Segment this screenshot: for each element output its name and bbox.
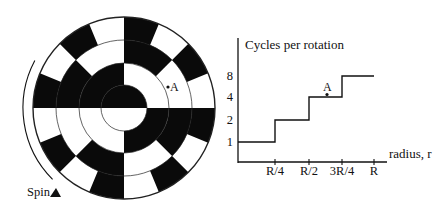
spin-label: Spin (27, 185, 51, 199)
step-plot: Cycles per rotation radius, r R/4R/23R/4… (227, 37, 433, 178)
y-axis-label: Cycles per rotation (245, 37, 344, 52)
step-line (238, 76, 374, 142)
y-tick-label: 8 (227, 69, 233, 83)
x-tick-label: R (370, 164, 379, 178)
x-tick-label: R/4 (266, 164, 285, 178)
y-tick-label: 4 (227, 90, 234, 104)
point-a-label: A (170, 80, 179, 94)
plot-point-a-label: A (323, 80, 332, 94)
spin-arrow-icon (50, 188, 61, 197)
y-ticks: 1248 (227, 69, 234, 149)
y-tick-label: 2 (227, 113, 233, 127)
x-tick-label: 3R/4 (330, 164, 355, 178)
checkered-disk (33, 17, 215, 199)
figure-canvas: A Spin Cycles per rotation radius, r R/4… (0, 0, 447, 210)
x-tick-label: R/2 (300, 164, 318, 178)
x-axis-label: radius, r (389, 146, 432, 161)
y-tick-label: 1 (227, 135, 233, 149)
